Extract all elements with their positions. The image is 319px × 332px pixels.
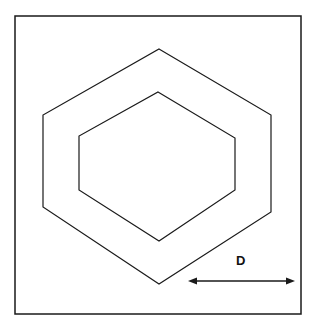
outer-hexagon bbox=[43, 49, 271, 284]
arrowhead-left-icon bbox=[188, 278, 197, 285]
frame-border bbox=[15, 16, 301, 314]
dimension-arrow bbox=[188, 278, 295, 285]
dimension-label: D bbox=[236, 253, 245, 268]
inner-hexagon bbox=[79, 92, 235, 241]
arrowhead-right-icon bbox=[286, 278, 295, 285]
hexagon-diagram bbox=[0, 0, 319, 332]
